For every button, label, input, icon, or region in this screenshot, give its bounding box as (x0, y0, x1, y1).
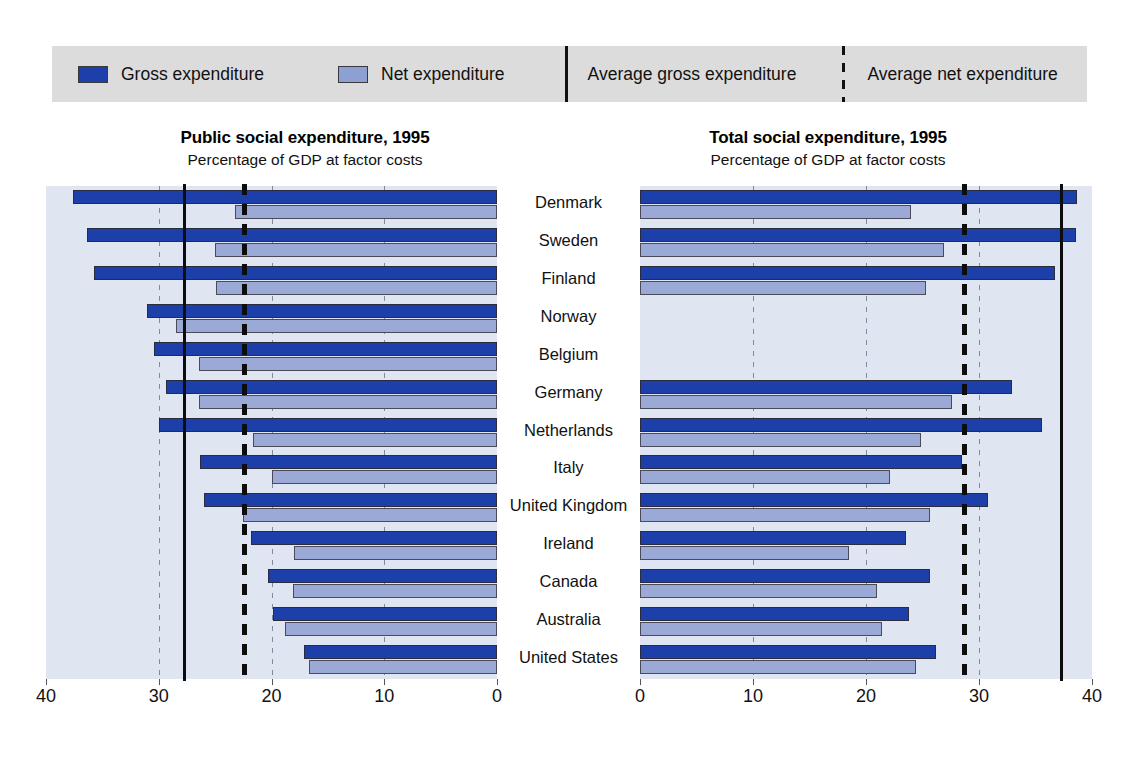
legend-dashed-line-icon (842, 46, 845, 102)
tickmark-public-40 (46, 679, 47, 685)
bar-total-ireland-gross (640, 531, 906, 545)
legend-label-gross-expenditure: Gross expenditure (121, 64, 264, 85)
tickmark-public-30 (159, 679, 160, 685)
bar-public-netherlands-net (253, 433, 497, 447)
bar-public-germany-gross (166, 380, 497, 394)
country-label-ireland: Ireland (497, 534, 640, 553)
gridline-30 (159, 186, 160, 679)
country-label-italy: Italy (497, 458, 640, 477)
bar-total-united-kingdom-net (640, 508, 930, 522)
tickmark-total-40 (1092, 679, 1093, 685)
bar-total-united-states-net (640, 660, 916, 674)
total-chart-title: Total social expenditure, 1995 (618, 128, 1038, 148)
bar-total-italy-gross (640, 455, 962, 469)
bar-public-italy-net (272, 470, 498, 484)
bar-total-netherlands-gross (640, 418, 1042, 432)
bar-public-united-states-gross (304, 645, 497, 659)
country-label-united-states: United States (497, 648, 640, 667)
total-chart-title-block: Total social expenditure, 1995 Percentag… (618, 128, 1038, 169)
country-label-sweden: Sweden (497, 231, 640, 250)
tick-label-public-0: 0 (492, 686, 502, 707)
bar-public-ireland-net (294, 546, 497, 560)
country-label-united-kingdom: United Kingdom (497, 496, 640, 515)
tick-label-public-40: 40 (36, 686, 56, 707)
tickmark-public-20 (272, 679, 273, 685)
country-label-finland: Finland (497, 269, 640, 288)
country-label-canada: Canada (497, 572, 640, 591)
bar-total-germany-gross (640, 380, 1012, 394)
bar-total-finland-gross (640, 266, 1055, 280)
tickmark-public-0 (497, 679, 498, 685)
bar-total-denmark-net (640, 205, 911, 219)
bar-public-sweden-gross (87, 228, 497, 242)
bar-public-belgium-gross (154, 342, 497, 356)
public-chart-title-block: Public social expenditure, 1995 Percenta… (95, 128, 515, 169)
bar-total-united-states-gross (640, 645, 936, 659)
tickmark-total-10 (753, 679, 754, 685)
public-chart-subtitle: Percentage of GDP at factor costs (95, 151, 515, 169)
bar-public-ireland-gross (251, 531, 497, 545)
bar-total-united-kingdom-gross (640, 493, 988, 507)
reference-line-average-gross-expenditure-public (183, 184, 186, 681)
total-chart-subtitle: Percentage of GDP at factor costs (618, 151, 1038, 169)
tick-label-public-10: 10 (374, 686, 394, 707)
legend-item-average-net-expenditure: Average net expenditure (867, 46, 1057, 102)
bar-public-canada-net (293, 584, 497, 598)
tickmark-total-20 (866, 679, 867, 685)
country-label-australia: Australia (497, 610, 640, 629)
bar-total-finland-net (640, 281, 926, 295)
tick-label-total-40: 40 (1082, 686, 1102, 707)
gridline-30 (979, 186, 980, 679)
bar-total-italy-net (640, 470, 890, 484)
tick-label-total-0: 0 (635, 686, 645, 707)
bar-total-denmark-gross (640, 190, 1077, 204)
legend-label-net-expenditure: Net expenditure (381, 64, 505, 85)
bar-total-australia-net (640, 622, 882, 636)
bar-public-canada-gross (268, 569, 497, 583)
bar-total-ireland-net (640, 546, 849, 560)
country-label-column: DenmarkSwedenFinlandNorwayBelgiumGermany… (497, 186, 640, 679)
tick-label-public-20: 20 (261, 686, 281, 707)
tick-label-total-30: 30 (969, 686, 989, 707)
tickmark-public-10 (384, 679, 385, 685)
public-chart-x-axis: 403020100 (46, 686, 497, 712)
reference-line-average-gross-expenditure-total (1060, 184, 1063, 681)
chart-legend: Gross expenditure Net expenditure Averag… (52, 46, 1087, 102)
bar-total-sweden-net (640, 243, 944, 257)
legend-item-gross-expenditure: Gross expenditure (78, 46, 264, 102)
bar-total-netherlands-net (640, 433, 921, 447)
legend-label-average-gross-expenditure: Average gross expenditure (588, 64, 797, 85)
bar-public-norway-net (176, 319, 497, 333)
public-social-expenditure-plot (46, 186, 497, 679)
reference-line-average-net-expenditure-total (962, 184, 967, 681)
bar-public-united-kingdom-gross (204, 493, 497, 507)
bar-total-australia-gross (640, 607, 909, 621)
tick-label-total-10: 10 (743, 686, 763, 707)
reference-line-average-net-expenditure-public (242, 184, 247, 681)
legend-item-net-expenditure: Net expenditure (338, 46, 505, 102)
tick-label-public-30: 30 (149, 686, 169, 707)
bar-total-sweden-gross (640, 228, 1076, 242)
bar-public-australia-gross (273, 607, 497, 621)
bar-public-denmark-net (235, 205, 497, 219)
bar-public-sweden-net (215, 243, 497, 257)
bar-public-norway-gross (147, 304, 497, 318)
tickmark-total-30 (979, 679, 980, 685)
country-label-germany: Germany (497, 383, 640, 402)
bar-public-denmark-gross (73, 190, 497, 204)
bar-public-australia-net (285, 622, 497, 636)
country-label-netherlands: Netherlands (497, 421, 640, 440)
net-expenditure-swatch-icon (338, 66, 368, 83)
public-chart-title: Public social expenditure, 1995 (95, 128, 515, 148)
total-chart-x-axis: 010203040 (640, 686, 1092, 712)
tick-label-total-20: 20 (856, 686, 876, 707)
country-label-belgium: Belgium (497, 345, 640, 364)
bar-total-germany-net (640, 395, 952, 409)
bar-public-finland-net (216, 281, 497, 295)
gross-expenditure-swatch-icon (78, 66, 108, 83)
legend-solid-line-icon (565, 46, 568, 102)
bar-public-finland-gross (94, 266, 497, 280)
country-label-denmark: Denmark (497, 193, 640, 212)
bar-total-canada-gross (640, 569, 930, 583)
bar-public-netherlands-gross (159, 418, 497, 432)
